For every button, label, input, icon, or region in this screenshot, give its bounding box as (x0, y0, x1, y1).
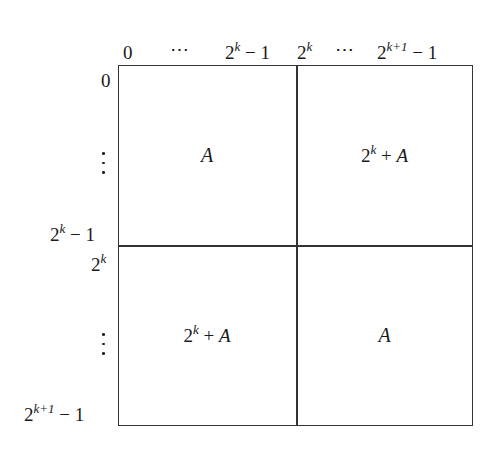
tail: − 1 (240, 42, 270, 63)
base: 2 (183, 325, 193, 346)
cell-text: A (201, 144, 213, 167)
operator: + (376, 145, 396, 166)
base: 2 (297, 42, 307, 63)
col-label-2k-minus-1: 2k − 1 (225, 43, 270, 62)
tail: − 1 (55, 404, 85, 425)
exponent: k (307, 39, 313, 54)
cell-bottom-left: 2k + A (118, 245, 296, 426)
variable: A (219, 325, 231, 346)
col-label-0: 0 (123, 43, 133, 62)
base: 2 (50, 224, 60, 245)
row-label-vertical-ellipsis-top (102, 152, 106, 181)
col-label-ellipsis-left: ⋯ (170, 40, 192, 59)
row-label-2k-minus-1: 2k − 1 (50, 225, 95, 244)
exponent: k (193, 322, 199, 337)
col-label-2k: 2k (297, 43, 312, 62)
cell-top-right: 2k + A (296, 65, 473, 245)
col-label-ellipsis-right: ⋯ (335, 40, 357, 59)
exponent: k (370, 142, 376, 157)
cell-expression: 2k + A (183, 326, 230, 345)
exponent: k (60, 221, 66, 236)
col-label-2k1-minus-1: 2k+1 − 1 (377, 43, 437, 62)
row-label-vertical-ellipsis-bottom (102, 333, 106, 362)
base: 2 (24, 404, 34, 425)
tail: − 1 (65, 224, 95, 245)
cell-top-left: A (118, 65, 296, 245)
base: 2 (91, 254, 101, 275)
row-label-2k: 2k (91, 255, 106, 274)
cell-expression: 2k + A (361, 146, 408, 165)
base: 2 (361, 145, 371, 166)
base: 2 (225, 42, 235, 63)
base: 2 (377, 42, 387, 63)
exponent: k (101, 251, 107, 266)
exponent: k (235, 39, 241, 54)
exponent: k+1 (34, 401, 55, 416)
cell-bottom-right: A (296, 245, 473, 426)
cell-text: A (378, 324, 390, 347)
row-label-2k1-minus-1: 2k+1 − 1 (24, 405, 84, 424)
row-label-0: 0 (101, 71, 111, 90)
tail: − 1 (408, 42, 438, 63)
variable: A (396, 145, 408, 166)
operator: + (199, 325, 219, 346)
exponent: k+1 (387, 39, 408, 54)
